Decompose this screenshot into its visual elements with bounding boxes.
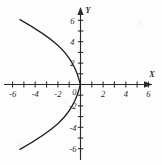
x-tick-label-neg6: -6 — [9, 89, 17, 99]
y-axis-arrowhead — [77, 7, 83, 15]
y-tick-label-neg6: -6 — [69, 144, 77, 154]
y-tick-label-4: 4 — [70, 37, 75, 47]
y-tick-label-6: 6 — [70, 16, 75, 26]
x-axis-label: X — [148, 70, 155, 79]
x-tick-label-6: 6 — [146, 89, 151, 99]
x-tick-label-neg2: -2 — [54, 89, 62, 99]
x-tick-label-4: 4 — [124, 89, 129, 99]
y-tick-label-neg2: -2 — [69, 101, 77, 111]
x-tick-label-neg4: -4 — [32, 89, 40, 99]
y-tick-label-neg4: -4 — [69, 123, 77, 133]
coordinate-plane-chart: -6 -4 -2 2 4 6 6 4 2 -2 -4 -6 0 X Y — [0, 0, 162, 165]
y-axis-label: Y — [86, 6, 92, 15]
graph-image: -6 -4 -2 2 4 6 6 4 2 -2 -4 -6 0 X Y — [0, 0, 162, 165]
x-tick-label-2: 2 — [101, 89, 106, 99]
